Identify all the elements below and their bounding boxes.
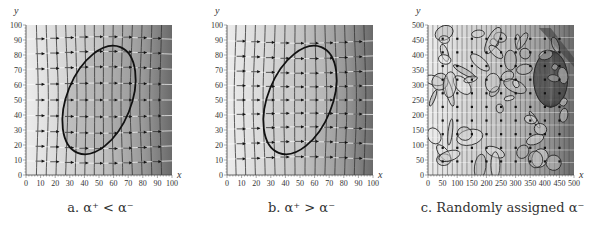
plot-a: 0102030405060708090100010203040506070809…: [0, 0, 201, 200]
panel-a: 0102030405060708090100010203040506070809…: [0, 0, 201, 231]
caption-c: c. Randomly assigned α⁻: [402, 200, 603, 215]
plot-area: [423, 22, 574, 180]
y-tick-label: 10: [14, 156, 22, 165]
x-tick-label: 100: [166, 179, 178, 188]
caption-b: b. α⁺ > α⁻: [201, 200, 402, 215]
y-tick-label: 500: [412, 21, 424, 30]
x-tick-label: 50: [296, 179, 304, 188]
x-tick-label: 90: [354, 179, 362, 188]
x-tick-label: 40: [281, 179, 289, 188]
y-tick-label: 20: [215, 141, 223, 150]
y-tick-label: 0: [420, 171, 424, 180]
panel-b: 0102030405060708090100010203040506070809…: [201, 0, 402, 231]
y-tick-label: 70: [14, 66, 22, 75]
x-tick-label: 70: [325, 179, 333, 188]
x-tick-label: 10: [238, 179, 246, 188]
y-tick-label: 0: [219, 171, 223, 180]
x-tick-label: 20: [51, 179, 59, 188]
y-tick-label: 10: [215, 156, 223, 165]
y-tick-label: 400: [412, 51, 424, 60]
x-tick-label: 50: [439, 179, 447, 188]
y-tick-label: 90: [215, 36, 223, 45]
x-tick-label: 30: [66, 179, 74, 188]
y-axis-label: y: [415, 5, 421, 16]
caption-a: a. α⁺ < α⁻: [0, 200, 201, 215]
x-tick-label: 70: [124, 179, 132, 188]
x-axis-label: x: [377, 169, 383, 180]
y-tick-label: 60: [14, 81, 22, 90]
x-tick-label: 0: [24, 179, 28, 188]
x-tick-label: 60: [311, 179, 319, 188]
plot-c: 0501001502002503003504004505000501001502…: [402, 0, 603, 200]
x-tick-label: 100: [451, 179, 463, 188]
y-tick-label: 150: [412, 126, 424, 135]
y-tick-label: 200: [412, 111, 424, 120]
y-tick-label: 450: [412, 36, 424, 45]
y-axis-label: y: [13, 5, 19, 16]
y-tick-label: 50: [215, 96, 223, 105]
y-tick-label: 40: [215, 111, 223, 120]
x-tick-label: 80: [340, 179, 348, 188]
y-tick-label: 0: [18, 171, 22, 180]
x-tick-label: 350: [524, 179, 536, 188]
y-tick-label: 250: [412, 96, 424, 105]
plot-b: 0102030405060708090100010203040506070809…: [201, 0, 402, 200]
y-tick-label: 350: [412, 66, 424, 75]
y-tick-label: 50: [14, 96, 22, 105]
x-tick-label: 400: [539, 179, 551, 188]
x-tick-label: 250: [495, 179, 507, 188]
y-tick-label: 100: [10, 21, 22, 30]
y-tick-label: 70: [215, 66, 223, 75]
y-tick-label: 80: [14, 51, 22, 60]
panel-c: 0501001502002503003504004505000501001502…: [402, 0, 603, 231]
plot-area: [227, 25, 373, 175]
y-axis-label: y: [214, 5, 220, 16]
y-tick-label: 80: [215, 51, 223, 60]
y-tick-label: 30: [14, 126, 22, 135]
plot-area: [26, 25, 172, 175]
y-tick-label: 100: [211, 21, 223, 30]
x-tick-label: 90: [153, 179, 161, 188]
y-tick-label: 90: [14, 36, 22, 45]
x-axis-label: x: [176, 169, 182, 180]
y-tick-label: 20: [14, 141, 22, 150]
x-tick-label: 100: [367, 179, 379, 188]
y-tick-label: 100: [412, 141, 424, 150]
x-tick-label: 200: [480, 179, 492, 188]
x-tick-label: 20: [252, 179, 260, 188]
y-tick-label: 300: [412, 81, 424, 90]
x-tick-label: 30: [267, 179, 275, 188]
y-tick-label: 60: [215, 81, 223, 90]
x-tick-label: 0: [225, 179, 229, 188]
x-axis-label: x: [578, 169, 584, 180]
y-tick-label: 40: [14, 111, 22, 120]
x-tick-label: 300: [510, 179, 522, 188]
x-tick-label: 0: [426, 179, 430, 188]
x-tick-label: 500: [568, 179, 580, 188]
y-tick-label: 50: [416, 156, 424, 165]
x-tick-label: 60: [110, 179, 118, 188]
x-tick-label: 10: [37, 179, 45, 188]
x-tick-label: 50: [95, 179, 103, 188]
x-tick-label: 150: [466, 179, 478, 188]
x-tick-label: 450: [553, 179, 565, 188]
y-tick-label: 30: [215, 126, 223, 135]
x-tick-label: 80: [139, 179, 147, 188]
x-tick-label: 40: [80, 179, 88, 188]
